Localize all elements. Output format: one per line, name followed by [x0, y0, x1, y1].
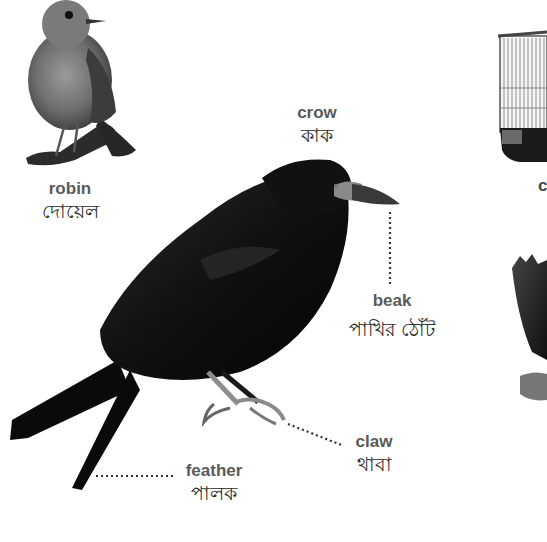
- feather-label-en: feather: [176, 461, 252, 481]
- robin-label-bn: দোয়েল: [25, 199, 115, 223]
- claw-label-en: claw: [344, 432, 404, 452]
- robin-label-en: robin: [25, 179, 115, 199]
- cut-off-label-en: c: [538, 176, 547, 195]
- illustrations: [0, 0, 547, 542]
- claw-label: claw থাবা: [344, 432, 404, 476]
- robin-image: [26, 0, 136, 165]
- beak-label: beak পাখির ঠোঁট: [340, 291, 444, 341]
- beak-label-en: beak: [340, 291, 444, 311]
- feather-label: feather পালক: [176, 461, 252, 505]
- eagle-image: [512, 254, 547, 400]
- claw-leader-line: [288, 424, 344, 446]
- robin-label: robin দোয়েল: [25, 179, 115, 223]
- feather-label-bn: পালক: [176, 481, 252, 505]
- claw-label-bn: থাবা: [344, 452, 404, 476]
- crow-label: crow কাক: [277, 103, 357, 147]
- crow-label-bn: কাক: [277, 123, 357, 147]
- cut-off-label: c: [538, 176, 547, 196]
- crow-label-en: crow: [277, 103, 357, 123]
- beak-label-bn: পাখির ঠোঁট: [340, 317, 444, 341]
- birdcage-image: [498, 32, 547, 162]
